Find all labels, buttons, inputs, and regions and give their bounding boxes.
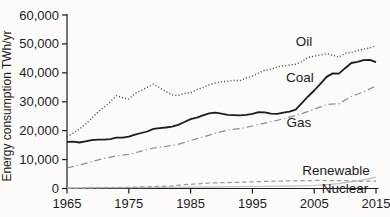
y-axis-title: Energy consumption TWh/yr [0,30,14,181]
series-label-oil: Oil [296,34,313,49]
y-tick-label: 60,000 [19,8,59,23]
x-tick-label: 1995 [238,196,267,211]
y-tick-label: 30,000 [19,94,59,109]
y-tick-label: 50,000 [19,36,59,51]
series-line-gas [67,86,376,168]
series-label-coal: Coal [286,70,314,85]
x-tick-label: 1965 [53,196,82,211]
energy-consumption-figure: Energy consumption TWh/yr 010,00020,0003… [0,0,390,217]
y-tick-label: 10,000 [19,152,59,167]
y-tick-label: 0 [52,181,59,196]
x-tick-label: 2015 [362,196,390,211]
y-tick-label: 20,000 [19,123,59,138]
series-label-nuclear: Nuclear [322,181,369,196]
x-tick-label: 1985 [176,196,205,211]
energy-consumption-chart: Energy consumption TWh/yr 010,00020,0003… [0,0,390,217]
x-tick-label: 1975 [114,196,143,211]
y-tick-label: 40,000 [19,65,59,80]
series-label-renewable: Renewable [302,163,370,178]
plot-area: 010,00020,00030,00040,00050,00060,000196… [19,8,390,211]
series-label-gas: Gas [287,115,312,130]
x-tick-label: 2005 [300,196,329,211]
series-line-oil [67,46,376,137]
series-line-coal [67,60,376,143]
